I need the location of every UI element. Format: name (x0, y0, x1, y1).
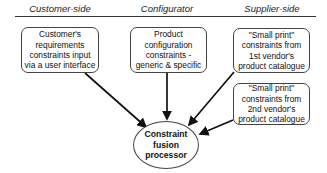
arrow-vendor2-to-fusion (200, 120, 233, 134)
node-vendor1-small-print: "Small print" constraints from 1st vendo… (233, 28, 310, 73)
arrow-vendor1-to-fusion (189, 72, 234, 125)
node-vendor2-small-print: "Small print" constraints from 2nd vendo… (233, 83, 310, 125)
node-product-configuration: Product configuration constraints - gene… (130, 27, 207, 73)
node-customer-requirements: Customer's requirements constraints inpu… (21, 27, 99, 73)
arrow-customer-to-fusion (85, 73, 146, 127)
node-constraint-fusion-processor: Constraint fusion processor (133, 121, 199, 169)
